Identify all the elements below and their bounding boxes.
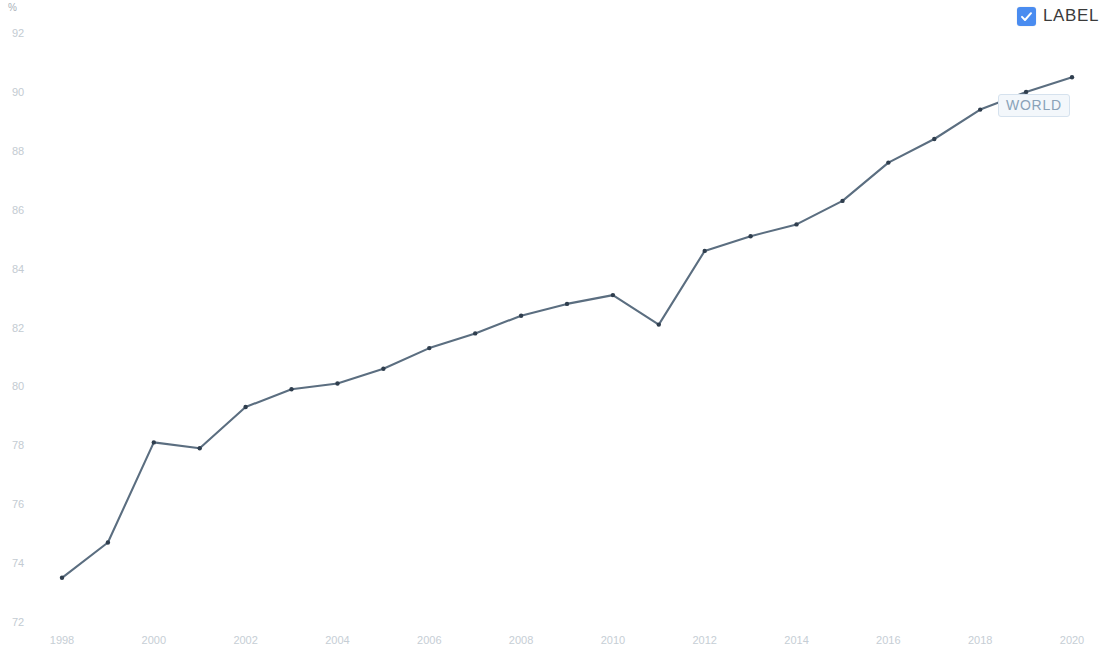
series-data-point[interactable] bbox=[657, 322, 661, 326]
x-tick-label: 2002 bbox=[233, 634, 257, 646]
series-data-point[interactable] bbox=[152, 440, 156, 444]
y-tick-label: 78 bbox=[12, 439, 42, 451]
y-tick-label: 84 bbox=[12, 263, 42, 275]
y-tick-label: 86 bbox=[12, 204, 42, 216]
series-data-point[interactable] bbox=[473, 331, 477, 335]
y-tick-label: 82 bbox=[12, 322, 42, 334]
y-axis-unit-label: % bbox=[8, 2, 17, 13]
x-tick-label: 2012 bbox=[692, 634, 716, 646]
x-tick-label: 2020 bbox=[1060, 634, 1084, 646]
series-data-point[interactable] bbox=[198, 446, 202, 450]
x-tick-label: 2004 bbox=[325, 634, 349, 646]
legend-label: LABEL bbox=[1043, 6, 1099, 26]
x-tick-label: 2014 bbox=[784, 634, 808, 646]
legend[interactable]: LABEL bbox=[1017, 6, 1099, 26]
y-tick-label: 76 bbox=[12, 498, 42, 510]
x-tick-label: 2010 bbox=[601, 634, 625, 646]
series-data-point[interactable] bbox=[565, 302, 569, 306]
x-tick-label: 2008 bbox=[509, 634, 533, 646]
series-data-point[interactable] bbox=[794, 222, 798, 226]
series-data-point[interactable] bbox=[748, 234, 752, 238]
y-tick-label: 92 bbox=[12, 27, 42, 39]
series-data-point[interactable] bbox=[289, 387, 293, 391]
series-data-point[interactable] bbox=[1070, 75, 1074, 79]
series-points bbox=[60, 75, 1074, 580]
series-data-point[interactable] bbox=[381, 367, 385, 371]
y-tick-label: 80 bbox=[12, 380, 42, 392]
point-annotation-world[interactable]: WORLD bbox=[998, 94, 1070, 117]
plot-area bbox=[0, 0, 1109, 662]
series-data-point[interactable] bbox=[519, 314, 523, 318]
series-data-point[interactable] bbox=[60, 576, 64, 580]
series-data-point[interactable] bbox=[932, 137, 936, 141]
chart-container: LABEL % 7274767880828486889092 199820002… bbox=[0, 0, 1109, 662]
series-line-world bbox=[62, 77, 1072, 578]
x-tick-label: 2018 bbox=[968, 634, 992, 646]
series-data-point[interactable] bbox=[886, 160, 890, 164]
series-data-point[interactable] bbox=[703, 249, 707, 253]
y-tick-label: 72 bbox=[12, 616, 42, 628]
series-data-point[interactable] bbox=[611, 293, 615, 297]
y-tick-label: 74 bbox=[12, 557, 42, 569]
series-data-point[interactable] bbox=[978, 107, 982, 111]
x-tick-label: 2016 bbox=[876, 634, 900, 646]
x-tick-label: 2006 bbox=[417, 634, 441, 646]
checkbox-checked-icon[interactable] bbox=[1017, 7, 1036, 26]
series-data-point[interactable] bbox=[243, 405, 247, 409]
series-data-point[interactable] bbox=[106, 540, 110, 544]
y-tick-label: 88 bbox=[12, 145, 42, 157]
y-tick-label: 90 bbox=[12, 86, 42, 98]
series-data-point[interactable] bbox=[427, 346, 431, 350]
series-data-point[interactable] bbox=[335, 381, 339, 385]
x-tick-label: 1998 bbox=[50, 634, 74, 646]
series-data-point[interactable] bbox=[840, 199, 844, 203]
x-tick-label: 2000 bbox=[142, 634, 166, 646]
